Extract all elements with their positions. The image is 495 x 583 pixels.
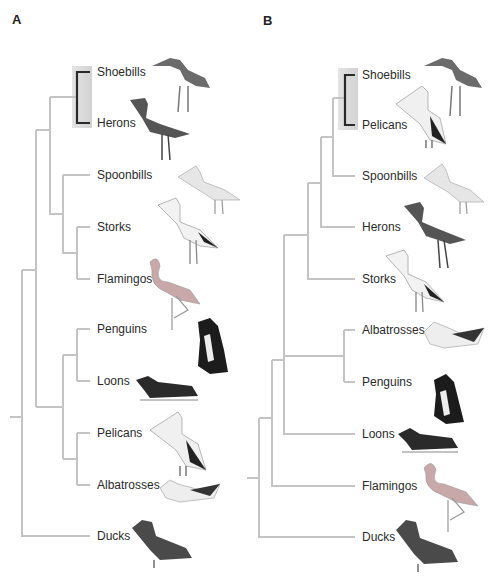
bird-illustrations: [0, 0, 495, 583]
shoebill-illustration: [424, 58, 482, 116]
stork-illustration: [386, 250, 444, 312]
duck-illustration: [132, 520, 192, 568]
spoonbill-illustration: [424, 164, 484, 214]
loon-illustration: [136, 376, 198, 400]
flamingo-illustration: [150, 259, 200, 330]
spoonbill-illustration: [178, 166, 240, 214]
shoebill-illustration: [152, 58, 210, 112]
flamingo-illustration: [424, 463, 478, 532]
albatross-illustration: [424, 322, 484, 348]
loon-illustration: [398, 428, 458, 452]
pelican-illustration: [396, 86, 446, 148]
stork-illustration: [158, 198, 218, 264]
penguin-illustration: [198, 318, 228, 374]
penguin-illustration: [434, 374, 464, 424]
pelican-illustration: [150, 412, 206, 476]
heron-illustration: [130, 98, 190, 160]
albatross-illustration: [160, 480, 220, 502]
duck-illustration: [396, 520, 458, 572]
heron-illustration: [404, 202, 466, 268]
